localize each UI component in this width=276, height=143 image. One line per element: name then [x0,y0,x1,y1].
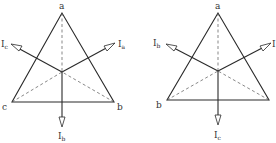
vertex-label-top: a [59,1,65,11]
phasor-diagrams: a c b Ia Ic Ib a b I Ib Ic [0,0,276,143]
arrow-ib-head-icon [59,117,65,127]
current-label-ic: Ic [214,130,222,141]
arrow-ic-line [16,47,62,72]
dashed-median-b [167,71,218,100]
dashed-median-b [62,72,114,102]
current-label-ib: Ib [153,38,161,49]
current-label-ic: Ic [1,39,9,50]
right-diagram: a b I Ib Ic [153,1,276,141]
arrow-ic-head-icon [215,115,221,125]
left-diagram: a c b Ia Ic Ib [1,1,126,142]
vertex-label-top: a [215,1,221,11]
current-label-ia: Ia [118,39,126,50]
left-triangle [12,13,114,102]
dashed-median-c [12,72,62,102]
arrow-ia-line [218,46,266,71]
vertex-label-left: b [156,100,162,110]
vertex-label-right: b [117,102,123,112]
vertex-label-left: c [2,102,7,112]
current-label-ib: Ib [58,131,66,142]
dashed-median-c [218,71,269,100]
arrow-ia-head-icon [104,43,115,51]
arrow-ia-line [62,46,110,72]
arrow-ia-head-icon [260,43,271,51]
current-label-ia: I [272,39,276,49]
arrow-ib-head-icon [166,44,177,51]
arrow-ib-line [172,47,218,71]
